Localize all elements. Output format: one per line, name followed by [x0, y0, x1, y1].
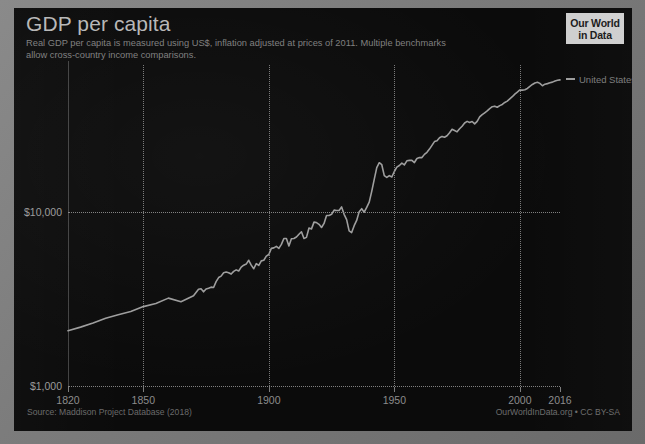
gridline-y-10000	[68, 212, 560, 213]
tick-x-2016	[560, 387, 561, 392]
x-tick-label-1900: 1900	[257, 394, 280, 406]
plot-area	[68, 65, 560, 386]
tick-x-1950	[394, 387, 395, 392]
logo-line-2: in Data	[566, 29, 624, 41]
series-legend-united-states[interactable]: United States	[566, 74, 632, 85]
gridline-y-1000	[68, 386, 560, 387]
chart-subtitle: Real GDP per capita is measured using US…	[26, 38, 466, 61]
tick-x-2000	[520, 387, 521, 392]
x-tick-label-2000: 2000	[508, 394, 531, 406]
x-tick-label-1950: 1950	[383, 394, 406, 406]
gridline-x-1900	[269, 65, 270, 386]
our-world-in-data-logo[interactable]: Our World in Data	[566, 13, 624, 44]
logo-line-1: Our World	[566, 17, 624, 29]
x-tick-label-1850: 1850	[132, 394, 155, 406]
chart-canvas: GDP per capita Real GDP per capita is me…	[14, 8, 632, 431]
y-tick-label-1000: $1,000	[14, 380, 62, 392]
series-line-svg	[68, 65, 560, 386]
tick-x-1820	[68, 387, 69, 392]
gridline-x-1950	[394, 65, 395, 386]
attribution-note[interactable]: OurWorldInData.org • CC BY-SA	[496, 407, 620, 417]
source-note: Source: Maddison Project Database (2018)	[27, 407, 192, 417]
united-states-line	[68, 80, 560, 331]
legend-label-text: United States	[579, 74, 632, 85]
x-tick-label-2016: 2016	[548, 394, 571, 406]
gridline-x-1850	[143, 65, 144, 386]
tick-x-1900	[269, 387, 270, 392]
x-tick-label-1820: 1820	[56, 394, 79, 406]
page-title: GDP per capita	[26, 12, 546, 36]
photo-frame: GDP per capita Real GDP per capita is me…	[0, 0, 645, 444]
gridline-x-2000	[520, 65, 521, 386]
legend-line-swatch	[566, 78, 575, 80]
y-tick-label-10000: $10,000	[14, 206, 62, 218]
chart-header: GDP per capita Real GDP per capita is me…	[26, 12, 546, 61]
tick-x-1850	[143, 387, 144, 392]
